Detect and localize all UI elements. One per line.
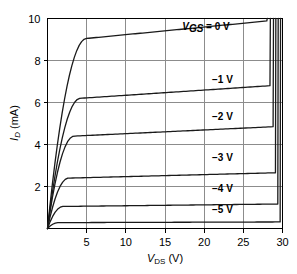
y-tick-label: 4 <box>34 139 40 151</box>
x-tick-label: 5 <box>84 236 90 248</box>
x-tick-label: 20 <box>198 236 210 248</box>
curve-label-vgs--3: −3 V <box>212 152 233 163</box>
y-tick-label: 10 <box>28 13 40 25</box>
x-axis-title: VDS (V) <box>147 252 183 266</box>
x-tick-label: 30 <box>276 236 288 248</box>
x-tick-label: 10 <box>120 236 132 248</box>
curve-label-vgs--5: −5 V <box>212 204 233 215</box>
chart-canvas: 246810 51015202530 VGS = 0 V−1 V−2 V−3 V… <box>0 0 297 274</box>
curve-label-vgs--4: −4 V <box>212 183 233 194</box>
x-tick-label: 25 <box>237 236 249 248</box>
curve-label-vgs--2: −2 V <box>212 111 233 122</box>
chart-background <box>0 0 297 274</box>
jfet-drain-characteristics-chart: 246810 51015202530 VGS = 0 V−1 V−2 V−3 V… <box>0 0 297 274</box>
y-tick-label: 6 <box>34 97 40 109</box>
y-tick-label: 8 <box>34 55 40 67</box>
x-tick-label: 15 <box>159 236 171 248</box>
y-tick-label: 2 <box>34 181 40 193</box>
curve-label-vgs--1: −1 V <box>212 74 233 85</box>
